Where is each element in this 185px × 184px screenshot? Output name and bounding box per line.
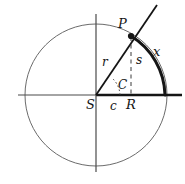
label-radius-r: r (102, 56, 108, 68)
label-point-s: S (86, 98, 95, 111)
circle-geometry-diagram: P x s r S c R C (0, 0, 185, 184)
label-angle-c: C (118, 79, 127, 91)
label-chord-c: c (110, 100, 117, 112)
label-arc-x: x (153, 45, 160, 58)
diagram-canvas (0, 0, 185, 184)
point-p-marker (128, 33, 134, 39)
label-point-r: R (126, 98, 136, 111)
label-segment-s: s (136, 54, 142, 66)
label-point-p: P (118, 17, 127, 30)
